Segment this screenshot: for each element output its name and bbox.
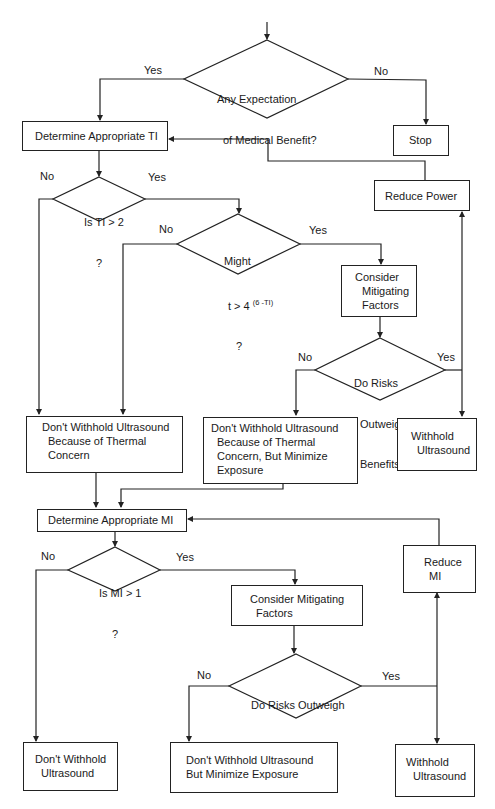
decision-mi-text: Is MI > 1 ? <box>99 560 142 655</box>
box-text: Don't Withhold Ultrasound <box>186 753 313 767</box>
decision-line: Is TI > 2 <box>84 216 124 230</box>
box-text: Factors <box>256 606 293 620</box>
thermal-mitigating-box: Consider Mitigating Factors <box>341 265 417 317</box>
dont-withhold-minimize-mechanical-box: Don't Withhold Ultrasound But Minimize E… <box>170 742 338 793</box>
label-yes: Yes <box>176 551 194 563</box>
exponent: (6 -TI) <box>253 298 273 307</box>
box-text: Withhold <box>406 755 449 769</box>
reduce-power-box: Reduce Power <box>374 180 470 211</box>
box-text: Reduce <box>424 555 462 569</box>
decision-line: ? <box>224 340 273 354</box>
box-text: Don't Withhold <box>35 752 106 766</box>
decision-line: Do Risks Outweigh <box>251 699 345 713</box>
box-text: Reduce Power <box>385 189 457 203</box>
decision-medical-benefit-text: Any Expectation of Medical Benefit? <box>217 66 317 161</box>
box-text: Ultrasound <box>417 443 470 457</box>
box-text: Ultrasound <box>41 766 94 780</box>
box-text: Mitigating <box>362 284 409 298</box>
box-text: Withhold <box>411 429 454 443</box>
box-text: Don't Withhold Ultrasound <box>42 420 169 434</box>
decision-line: ? <box>84 257 124 271</box>
box-text: Concern <box>48 448 90 462</box>
box-text: Don't Withhold Ultrasound <box>211 421 338 435</box>
dont-withhold-mechanical-box: Don't Withhold Ultrasound <box>23 742 118 791</box>
decision-time-text: Might t > 4 (6 -TI) ? <box>224 228 273 367</box>
box-text: Stop <box>409 133 432 147</box>
box-text: Consider <box>355 270 399 284</box>
box-text: But Minimize Exposure <box>186 767 299 781</box>
box-text: Determine Appropriate MI <box>48 513 173 527</box>
label-no: No <box>40 170 54 182</box>
box-text: Because of Thermal <box>217 435 315 449</box>
label-no: No <box>197 669 211 681</box>
decision-line: Do Risks <box>354 377 406 391</box>
label-no: No <box>374 65 388 77</box>
decision-line: Might <box>224 255 273 269</box>
box-text: Determine Appropriate TI <box>35 129 158 143</box>
label-yes: Yes <box>144 64 162 76</box>
withhold-mechanical-box: Withhold Ultrasound <box>395 744 475 797</box>
label-yes: Yes <box>148 171 166 183</box>
stop-box: Stop <box>393 125 449 156</box>
decision-line: ? <box>99 628 142 642</box>
box-text: Ultrasound <box>413 769 466 783</box>
label-no: No <box>41 550 55 562</box>
dont-withhold-thermal-box: Don't Withhold Ultrasound Because of The… <box>26 416 183 473</box>
reduce-mi-box: Reduce MI <box>403 545 476 593</box>
box-text: MI <box>429 569 441 583</box>
mechanical-mitigating-box: Consider Mitigating Factors <box>231 585 363 626</box>
label-yes: Yes <box>309 224 327 236</box>
determine-mi-box: Determine Appropriate MI <box>37 509 187 532</box>
decision-line: Is MI > 1 <box>99 587 142 601</box>
decision-ti-text: Is TI > 2 ? <box>84 189 124 284</box>
decision-line: of Medical Benefit? <box>217 134 317 148</box>
dont-withhold-minimize-thermal-box: Don't Withhold Ultrasound Because of The… <box>203 417 358 484</box>
label-yes: Yes <box>382 670 400 682</box>
withhold-thermal-box: Withhold Ultrasound <box>397 418 477 471</box>
label-no: No <box>298 351 312 363</box>
label-yes: Yes <box>437 351 455 363</box>
determine-ti-box: Determine Appropriate TI <box>22 121 168 151</box>
box-text: Exposure <box>217 463 263 477</box>
decision-line: Any Expectation <box>217 93 317 107</box>
label-no: No <box>159 223 173 235</box>
box-text: Because of Thermal <box>48 434 146 448</box>
box-text: Factors <box>362 298 399 312</box>
box-text: Concern, But Minimize <box>217 449 328 463</box>
box-text: Consider Mitigating <box>250 592 344 606</box>
decision-line: t > 4 <box>228 300 250 312</box>
